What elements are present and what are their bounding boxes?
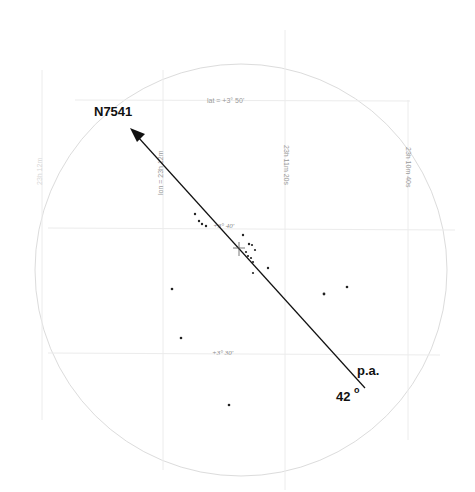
lat-top-label: lat = +3° 50' — [207, 97, 244, 104]
lon-left-label: 23h 12m — [36, 158, 43, 185]
field-circle — [35, 64, 447, 476]
lon-right-label: 23h 10m 40s — [405, 147, 412, 188]
position-angle-arrow — [130, 128, 365, 388]
arrowhead-icon — [130, 128, 145, 142]
lon-main-label: lon = 23h 12m — [157, 150, 164, 195]
finder-chart: lat = +3° 50' +3° 40' +3° 30' lon = 23h … — [0, 0, 475, 492]
pa-value: 42 — [336, 389, 350, 404]
object-label: N7541 — [94, 104, 132, 119]
lat-bottom-label: +3° 30' — [212, 349, 234, 357]
pa-label: p.a. — [357, 363, 379, 378]
pa-degree-symbol: o — [354, 385, 360, 395]
lon-mid-label: 23h 11m 20s — [283, 145, 290, 185]
stars — [171, 213, 349, 407]
